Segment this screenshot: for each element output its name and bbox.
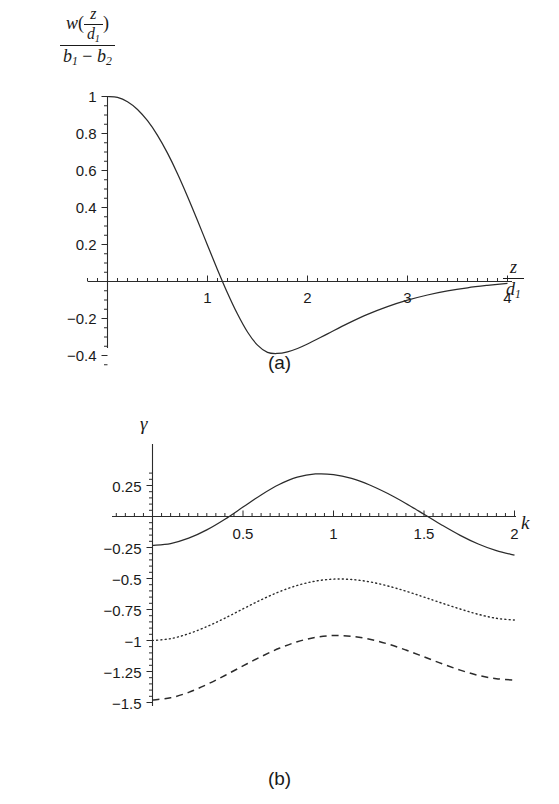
panel-b-curve-p0: [153, 579, 515, 641]
panel-a-y-ticklabel: 0.6: [76, 162, 97, 179]
ylabel-a-b1: b: [63, 46, 72, 66]
panel-b-ylabel: γ: [140, 414, 148, 434]
panel-a-xlabel: z d1: [503, 258, 524, 301]
panel-a-y-ticklabel: 0.2: [76, 236, 97, 253]
panel-b-x-ticklabel: 2: [510, 525, 518, 542]
panel-b-x-ticklabel: 1: [329, 525, 337, 542]
ylabel-a-arg-num: z: [84, 6, 103, 25]
panel-a-x-ticklabel: 3: [403, 289, 411, 306]
panel-b-y-ticklabel: −0.5: [112, 571, 142, 588]
panel-b: γ k 0.25−0.25−0.5−0.75−1−1.25−1.5 0.511.…: [0, 400, 559, 804]
panel-a-y-ticklabel: −0.2: [67, 310, 97, 327]
panel-a-x-ticklabel: 1: [203, 289, 211, 306]
panel-a-caption: (a): [0, 352, 559, 374]
panel-b-y-ticklabel: 0.25: [112, 478, 141, 495]
ylabel-a-b2-sub: 2: [106, 55, 112, 68]
panel-a-y-ticklabel: 0.4: [76, 199, 97, 216]
panel-b-curve-p1: [153, 635, 515, 700]
panel-b-x-ticklabel: 1.5: [414, 525, 435, 542]
panel-a-ylabel: w(zd1) b1 − b2: [60, 6, 115, 68]
panel-b-y-ticklabel: −1: [124, 633, 141, 650]
panel-a-curve: [108, 97, 508, 354]
panel-b-plot: 0.25−0.25−0.5−0.75−1−1.25−1.5 0.511.52: [0, 400, 559, 804]
panel-b-y-ticklabel: −0.25: [104, 540, 142, 557]
panel-a-y-ticklabels: 10.80.60.40.2−0.2−0.4: [67, 88, 97, 364]
panel-b-x-ticklabel: 0.5: [233, 525, 254, 542]
panel-b-x-ticks: [116, 511, 514, 517]
ylabel-a-b2: b: [97, 46, 106, 66]
panel-b-x-ticklabels: 0.511.52: [233, 525, 519, 542]
panel-b-y-ticklabel: −1.5: [112, 695, 142, 712]
panel-a: w(zd1) b1 − b2 z d1 10.80.60.40.2−0.2−0.…: [0, 0, 559, 400]
panel-a-x-ticklabels: 1234: [203, 289, 511, 306]
panel-b-xlabel: k: [521, 513, 529, 533]
ylabel-a-minus: −: [82, 46, 92, 66]
panel-a-y-ticklabel: 1: [88, 88, 96, 105]
ylabel-a-fn: w: [66, 13, 78, 33]
panel-a-x-ticks: [88, 276, 508, 282]
panel-a-y-ticks: [102, 97, 108, 365]
panel-b-caption: (b): [0, 768, 559, 790]
panel-a-y-ticklabel: 0.8: [76, 125, 97, 142]
panel-a-x-ticklabel: 2: [303, 289, 311, 306]
panel-b-y-ticklabels: 0.25−0.25−0.5−0.75−1−1.25−1.5: [104, 478, 142, 712]
xlabel-a-den-sub: 1: [515, 288, 521, 301]
xlabel-a-den: d: [506, 279, 515, 299]
ylabel-a-arg-den-sub: 1: [95, 32, 100, 43]
figure-container: w(zd1) b1 − b2 z d1 10.80.60.40.2−0.2−0.…: [0, 0, 559, 804]
xlabel-a-num: z: [503, 258, 524, 279]
panel-b-y-ticklabel: −0.75: [104, 602, 142, 619]
panel-b-y-ticklabel: −1.25: [104, 664, 142, 681]
ylabel-a-arg-den: d: [87, 25, 95, 42]
panel-b-y-ticks: [147, 473, 153, 702]
